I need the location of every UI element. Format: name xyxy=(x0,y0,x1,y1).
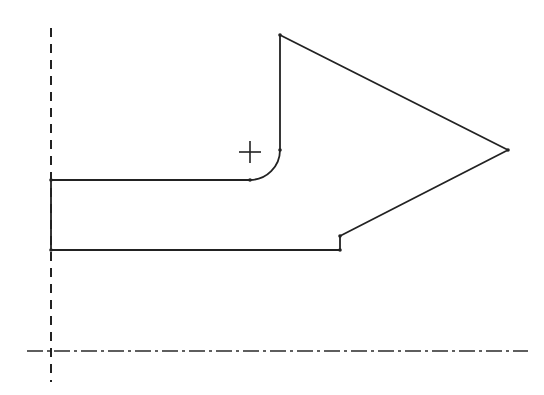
vertex-point-p5[interactable] xyxy=(506,148,510,152)
crosshair-cursor-icon xyxy=(239,141,261,163)
vertex-point-p8[interactable] xyxy=(49,248,53,252)
sketch-canvas[interactable] xyxy=(0,0,544,395)
vertex-point-p7[interactable] xyxy=(338,248,342,252)
vertex-point-p3[interactable] xyxy=(278,148,282,152)
vertex-point-p2[interactable] xyxy=(248,178,252,182)
vertex-point-p6[interactable] xyxy=(338,234,342,238)
vertex-point-p4[interactable] xyxy=(278,33,282,37)
arrow-profile-outline[interactable] xyxy=(51,35,508,250)
vertex-point-p1[interactable] xyxy=(49,178,53,182)
